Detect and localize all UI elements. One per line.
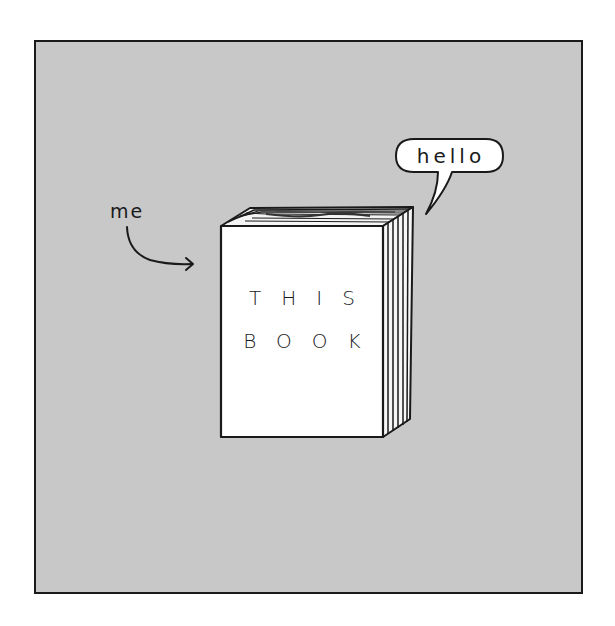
book-icon [221,207,413,437]
book-title-line-1: THIS [221,288,383,308]
illustration-artwork [0,0,615,626]
book-title-line-2: BOOK [221,331,383,351]
curved-arrow-icon [127,227,193,270]
me-label: me [110,200,144,222]
speech-bubble-text: hello [397,143,501,169]
